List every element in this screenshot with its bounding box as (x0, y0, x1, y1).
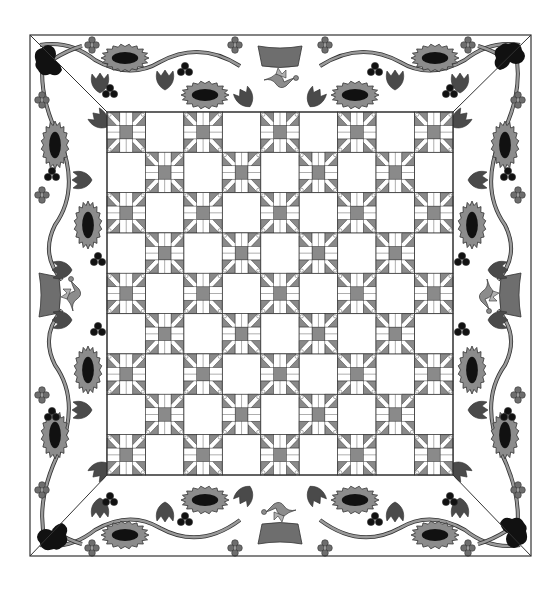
plain-block (376, 273, 414, 313)
flower-center (422, 529, 448, 541)
pieced-block (338, 435, 376, 475)
flower-center (49, 132, 61, 158)
block-center (350, 287, 363, 300)
pieced-block (145, 394, 183, 434)
basket-motif (479, 273, 521, 317)
tulip-bud-motif (232, 85, 257, 111)
pieced-center (107, 112, 453, 475)
flower-center (342, 89, 368, 101)
block-center (197, 367, 210, 380)
pieced-block (299, 314, 337, 354)
block-center (389, 246, 402, 259)
block-center (235, 166, 248, 179)
pieced-block (338, 112, 376, 152)
sunflower-motif (458, 201, 486, 249)
tulip-bud-motif (451, 73, 468, 93)
plain-block (222, 354, 260, 394)
sunflower-motif (331, 81, 379, 109)
flower-center (422, 52, 448, 64)
plain-block (376, 112, 414, 152)
plain-block (376, 435, 414, 475)
block-center (197, 448, 210, 461)
block-center (235, 408, 248, 421)
block-center (158, 166, 171, 179)
pieced-block (261, 354, 299, 394)
pieced-block (184, 193, 222, 233)
flower-center (82, 212, 94, 238)
tulip-bud-motif (72, 401, 92, 418)
plain-block (261, 314, 299, 354)
block-center (389, 166, 402, 179)
plain-block (107, 152, 145, 192)
pieced-block (107, 354, 145, 394)
pieced-block (261, 112, 299, 152)
block-center (427, 287, 440, 300)
block-center (427, 448, 440, 461)
plain-block (299, 273, 337, 313)
pieced-block (145, 152, 183, 192)
plain-block (415, 233, 453, 273)
block-center (274, 448, 287, 461)
plain-block (415, 394, 453, 434)
pieced-block (376, 152, 414, 192)
tulip-bud-motif (468, 401, 488, 418)
block-center (427, 206, 440, 219)
flower-center (112, 529, 138, 541)
block-center (274, 125, 287, 138)
plain-block (222, 112, 260, 152)
pieced-block (107, 193, 145, 233)
berry-cluster (318, 540, 333, 557)
pieced-block (261, 193, 299, 233)
plain-block (184, 233, 222, 273)
block-center (235, 327, 248, 340)
block-center (274, 206, 287, 219)
block-center (158, 246, 171, 259)
basket-body (39, 273, 61, 317)
flower-center (192, 89, 218, 101)
basket-body (258, 46, 302, 68)
block-center (197, 125, 210, 138)
pieced-block (184, 112, 222, 152)
basket-motif (258, 502, 302, 544)
plain-block (222, 435, 260, 475)
berry-cluster (454, 252, 469, 265)
pieced-block (261, 273, 299, 313)
block-center (312, 246, 325, 259)
tulip-bud-motif (72, 171, 92, 188)
block-center (350, 206, 363, 219)
plain-block (415, 152, 453, 192)
plain-block (222, 193, 260, 233)
berry-cluster (461, 37, 476, 54)
sunflower-motif (331, 486, 379, 514)
plain-block (338, 314, 376, 354)
tulip-bud-motif (488, 311, 508, 328)
plain-block (261, 233, 299, 273)
plain-block (184, 394, 222, 434)
block-center (120, 287, 133, 300)
berry-cluster (85, 37, 100, 54)
bird-motif (264, 68, 299, 88)
tulip-bud-motif (91, 73, 108, 93)
flower-center (342, 494, 368, 506)
flower-center (112, 52, 138, 64)
flower-center (192, 494, 218, 506)
sunflower-motif (74, 346, 102, 394)
plain-block (145, 273, 183, 313)
pieced-block (299, 233, 337, 273)
pieced-block (338, 273, 376, 313)
pieced-block (299, 152, 337, 192)
block-center (274, 367, 287, 380)
sunflower-motif (491, 121, 519, 169)
block-center (197, 206, 210, 219)
pieced-block (261, 435, 299, 475)
pieced-block (376, 394, 414, 434)
plain-block (299, 193, 337, 233)
plain-block (145, 193, 183, 233)
block-center (158, 408, 171, 421)
pieced-block (145, 314, 183, 354)
vine-stem (478, 530, 508, 544)
plain-block (145, 435, 183, 475)
berry-cluster (228, 540, 243, 557)
tulip-bud-motif (468, 171, 488, 188)
plain-block (415, 314, 453, 354)
